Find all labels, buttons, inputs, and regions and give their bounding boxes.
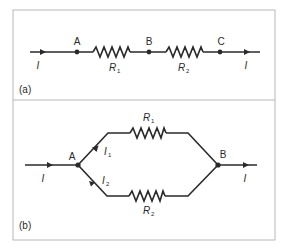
svg-text:2: 2: [186, 68, 190, 74]
resistor-r2-label: R 2: [143, 205, 155, 217]
current-out-label: I: [244, 173, 247, 184]
svg-text:1: 1: [117, 68, 121, 74]
panel-b-label: (b): [19, 220, 31, 231]
current-arrow-in-icon: [47, 162, 53, 168]
node-a-dot: [75, 50, 80, 55]
node-b-label: B: [146, 36, 153, 47]
resistor-r2-zigzag: [166, 47, 203, 57]
node-c-label: C: [217, 36, 224, 47]
node-a-label: A: [69, 151, 76, 162]
svg-text:R: R: [143, 205, 150, 216]
current-in-label: I: [37, 60, 40, 71]
svg-text:R: R: [178, 62, 185, 73]
resistor-r2-label: R 2: [178, 62, 190, 74]
node-c-dot: [218, 50, 223, 55]
node-b-dot: [215, 162, 220, 167]
current-arrow-out-icon: [243, 162, 249, 168]
svg-text:R: R: [109, 62, 116, 73]
branch-current-i2-label: I 2: [102, 175, 110, 187]
upper-branch-wire-right: [166, 133, 218, 165]
svg-text:I: I: [104, 146, 107, 157]
panel-a-series-circuit: [30, 47, 260, 57]
svg-text:R: R: [143, 112, 150, 123]
panel-b-parallel-circuit: [25, 128, 257, 201]
node-b-dot: [147, 50, 152, 55]
node-a-dot: [75, 162, 80, 167]
current-in-label: I: [42, 173, 45, 184]
node-b-label: B: [220, 149, 227, 160]
resistor-r1-zigzag: [93, 47, 130, 57]
current-out-label: I: [245, 60, 248, 71]
node-a-label: A: [74, 36, 81, 47]
current-arrow-in-icon: [40, 49, 46, 55]
svg-text:2: 2: [151, 211, 155, 217]
circuit-figure: A B C I I R 1 R 2 (a) A B I I I 1 I 2: [0, 0, 288, 248]
current-arrow-out-icon: [244, 49, 250, 55]
branch-current-i1-label: I 1: [104, 146, 112, 158]
svg-text:1: 1: [151, 118, 155, 124]
panel-a-label: (a): [19, 84, 31, 95]
svg-text:1: 1: [108, 152, 112, 158]
lower-branch-wire-right: [165, 165, 218, 196]
resistor-r1-label: R 1: [109, 62, 121, 74]
svg-text:2: 2: [106, 181, 110, 187]
resistor-r1-zigzag: [130, 128, 166, 138]
resistor-r1-label: R 1: [143, 112, 155, 124]
resistor-r2-zigzag: [129, 191, 165, 201]
svg-text:I: I: [102, 175, 105, 186]
